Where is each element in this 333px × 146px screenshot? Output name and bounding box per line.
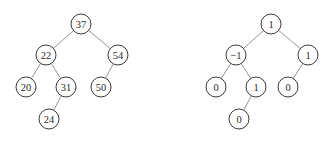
tree-edge [31,63,40,78]
tree-edge [53,31,73,49]
tree-edge [279,30,301,48]
node-label: 0 [213,82,218,93]
node-label: 31 [61,82,72,93]
tree-edge [51,63,60,78]
tree-edge [293,63,302,78]
tree-node: 50 [91,77,111,97]
node-label: 1 [268,19,273,30]
tree-node: 1 [261,14,281,34]
tree-edge [89,30,111,48]
tree-edge [244,96,252,110]
node-label: 37 [76,19,87,30]
node-label: 50 [96,82,107,93]
tree-node: −1 [226,45,246,65]
node-label: −1 [230,50,241,61]
tree-node: 1 [298,45,318,65]
tree-node: 0 [206,77,226,97]
tree-node: 0 [229,109,249,129]
tree-edge [243,31,263,49]
tree-edge [221,63,230,78]
node-label: 0 [285,82,290,93]
node-label: 0 [236,114,241,125]
node-label: 1 [253,82,258,93]
node-label: 1 [305,50,310,61]
tree-node: 24 [39,109,59,129]
node-label: 24 [44,114,55,125]
tree-node: 0 [278,77,298,97]
tree-node: 22 [36,45,56,65]
tree-bst-keys: 37225420315024 [16,14,128,129]
tree-node: 54 [108,45,128,65]
tree-node: 20 [16,77,36,97]
node-label: 22 [41,50,52,61]
tree-balance-factors: 1−110100 [206,14,318,129]
node-label: 20 [21,82,32,93]
tree-node: 31 [56,77,76,97]
tree-diagram-canvas: 372254203150241−110100 [0,0,333,146]
tree-edge [54,96,62,110]
node-label: 54 [113,50,124,61]
tree-edge [106,64,114,78]
tree-node: 37 [71,14,91,34]
tree-node: 1 [246,77,266,97]
tree-edge [241,63,250,78]
